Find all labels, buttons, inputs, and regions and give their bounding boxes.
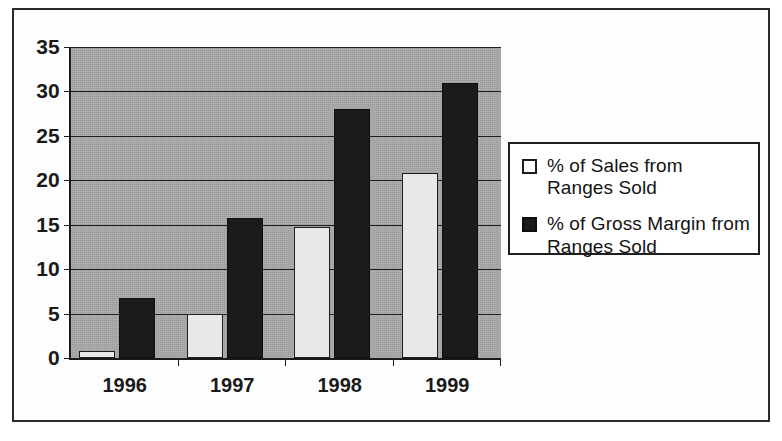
bar-1997-sales[interactable] (187, 314, 223, 358)
bar-1998-sales[interactable] (294, 227, 330, 359)
y-axis-label: 20 (36, 168, 60, 192)
legend-swatch-light-icon (522, 159, 537, 174)
plot-area: 05101520253035 1996199719981999 (69, 47, 501, 360)
y-axis-tick (64, 314, 71, 315)
y-axis-label: 5 (48, 302, 60, 326)
y-axis-tick (64, 47, 71, 48)
legend-swatch-dark-icon (522, 217, 537, 232)
x-axis-tick (500, 358, 501, 366)
bars (394, 47, 502, 358)
x-axis-label-1996: 1996 (71, 374, 179, 397)
y-axis-tick (64, 180, 71, 181)
legend-item-sales: % of Sales from Ranges Sold (522, 155, 750, 199)
bar-group-1999: 1999 (394, 47, 502, 358)
bars (179, 47, 287, 358)
legend-item-gross-margin: % of Gross Margin from Ranges Sold (522, 213, 750, 257)
y-axis-tick (64, 91, 71, 92)
bar-1998-gross-margin[interactable] (334, 109, 370, 358)
x-axis-tick (285, 358, 286, 366)
bar-1999-sales[interactable] (402, 173, 438, 358)
x-axis-label-1999: 1999 (394, 374, 502, 397)
bar-1999-gross-margin[interactable] (442, 83, 478, 358)
y-axis-label: 30 (36, 79, 60, 103)
y-axis-label: 0 (48, 346, 60, 370)
legend-label-sales: % of Sales from Ranges Sold (547, 155, 683, 199)
legend-label-gross-margin-line1: % of Gross Margin from (547, 213, 750, 234)
chart-legend: % of Sales from Ranges Sold % of Gross M… (508, 142, 760, 255)
legend-label-sales-line1: % of Sales from (547, 155, 683, 176)
x-axis-label-1998: 1998 (286, 374, 394, 397)
y-axis-tick (64, 136, 71, 137)
bar-chart: 05101520253035 1996199719981999 % of Sal… (14, 10, 772, 424)
y-axis-label: 25 (36, 124, 60, 148)
x-axis-label-1997: 1997 (179, 374, 287, 397)
bar-1996-gross-margin[interactable] (119, 298, 155, 358)
y-axis-label: 10 (36, 257, 60, 281)
bar-group-1998: 1998 (286, 47, 394, 358)
y-axis-label: 35 (36, 35, 60, 59)
y-axis-tick (64, 225, 71, 226)
bar-group-1997: 1997 (179, 47, 287, 358)
y-axis-label: 15 (36, 213, 60, 237)
legend-label-sales-line2: Ranges Sold (547, 177, 657, 198)
bars (71, 47, 179, 358)
y-axis-tick (64, 269, 71, 270)
legend-label-gross-margin-line2: Ranges Sold (547, 236, 657, 257)
x-axis-tick (393, 358, 394, 366)
figure-frame: 05101520253035 1996199719981999 % of Sal… (12, 8, 770, 422)
bars (286, 47, 394, 358)
bar-1997-gross-margin[interactable] (227, 218, 263, 358)
bar-1996-sales[interactable] (79, 351, 115, 358)
bar-group-1996: 1996 (71, 47, 179, 358)
x-axis-tick (178, 358, 179, 366)
y-axis-tick (64, 358, 71, 359)
legend-label-gross-margin: % of Gross Margin from Ranges Sold (547, 213, 750, 257)
